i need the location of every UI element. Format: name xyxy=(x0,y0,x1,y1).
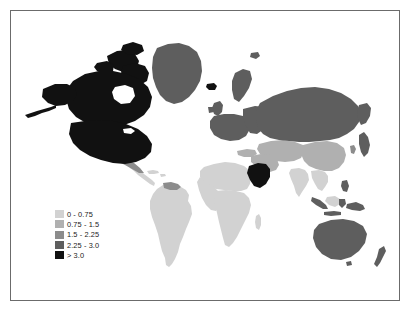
legend-swatch-over-3.0 xyxy=(55,251,64,259)
legend-swatch-2.25-3.0 xyxy=(55,241,64,249)
map-legend: 0 - 0.75 0.75 - 1.5 1.5 - 2.25 2.25 - 3.… xyxy=(55,209,117,260)
legend-row-2[interactable]: 1.5 - 2.25 xyxy=(55,230,117,240)
legend-swatch-0.75-1.5 xyxy=(55,220,64,228)
legend-row-0[interactable]: 0 - 0.75 xyxy=(55,209,117,219)
map-frame: 0 - 0.75 0.75 - 1.5 1.5 - 2.25 2.25 - 3.… xyxy=(10,10,400,301)
legend-row-1[interactable]: 0.75 - 1.5 xyxy=(55,219,117,229)
legend-row-3[interactable]: 2.25 - 3.0 xyxy=(55,240,117,250)
legend-label-0.75-1.5: 0.75 - 1.5 xyxy=(67,220,99,229)
legend-label-over-3.0: > 3.0 xyxy=(67,251,84,260)
legend-label-0-0.75: 0 - 0.75 xyxy=(67,210,93,219)
legend-label-2.25-3.0: 2.25 - 3.0 xyxy=(67,241,99,250)
legend-row-4[interactable]: > 3.0 xyxy=(55,250,117,260)
choropleth-map-figure: 0 - 0.75 0.75 - 1.5 1.5 - 2.25 2.25 - 3.… xyxy=(0,0,411,318)
legend-swatch-0-0.75 xyxy=(55,210,64,218)
legend-label-1.5-2.25: 1.5 - 2.25 xyxy=(67,230,99,239)
region-java xyxy=(324,211,341,216)
region-ireland xyxy=(208,107,214,113)
legend-swatch-1.5-2.25 xyxy=(55,231,64,239)
